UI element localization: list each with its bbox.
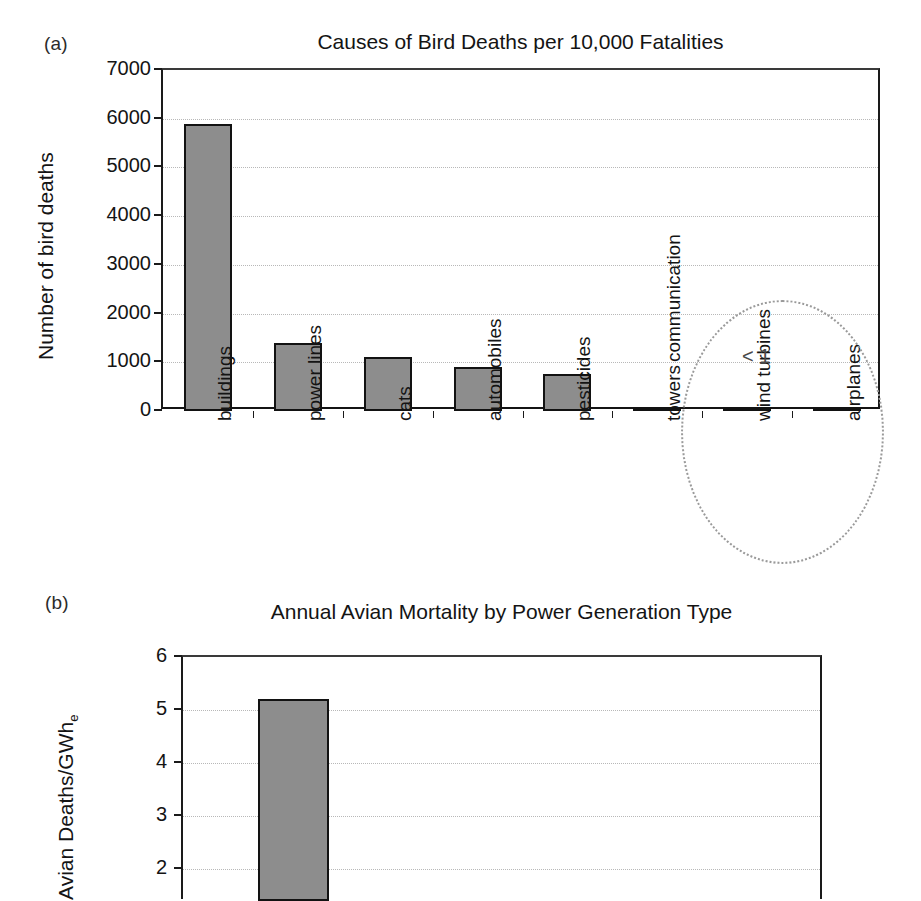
gridline xyxy=(163,216,878,217)
y-tick-mark xyxy=(174,867,182,869)
chart-b-plot-area xyxy=(181,655,822,899)
y-tick-label: 3000 xyxy=(85,251,151,274)
y-tick-mark xyxy=(154,68,162,70)
y-tick-label: 1000 xyxy=(85,349,151,372)
x-tick-mark xyxy=(523,411,524,418)
x-category-label-line: communication xyxy=(664,234,685,362)
y-tick-mark xyxy=(154,263,162,265)
less-than-one-annotation: < 1 xyxy=(742,345,770,368)
x-category-label: airplanes xyxy=(844,344,864,421)
y-tick-mark xyxy=(154,312,162,314)
y-tick-mark xyxy=(154,409,162,411)
x-tick-mark xyxy=(612,411,613,418)
x-tick-mark xyxy=(253,411,254,418)
y-tick-mark xyxy=(154,214,162,216)
y-tick-mark xyxy=(174,761,182,763)
chart-b-y-axis-title-text: Avian Deaths/GWh xyxy=(54,722,77,900)
y-tick-label: 5000 xyxy=(85,154,151,177)
panel-b-letter: (b) xyxy=(45,592,69,614)
x-category-label: buildings xyxy=(215,346,235,421)
x-category-label-line: pesticides xyxy=(574,337,594,422)
y-tick-label: 7000 xyxy=(85,57,151,80)
x-category-label-line: power lines xyxy=(305,325,325,421)
bar xyxy=(258,699,329,901)
y-tick-label: 4000 xyxy=(85,203,151,226)
y-tick-mark xyxy=(174,708,182,710)
y-tick-label: 3 xyxy=(133,803,167,826)
gridline xyxy=(163,265,878,266)
gridline xyxy=(163,119,878,120)
x-category-label: pesticides xyxy=(574,337,594,422)
x-tick-mark xyxy=(343,411,344,418)
x-category-label: communicationtowers xyxy=(664,234,685,421)
y-tick-mark xyxy=(154,117,162,119)
x-category-label: cats xyxy=(395,386,415,421)
x-category-label-line: towers xyxy=(664,365,685,421)
y-tick-label: 2000 xyxy=(85,300,151,323)
chart-b-y-axis-title: Avian Deaths/GWhe xyxy=(54,715,81,900)
panel-a-letter: (a) xyxy=(44,33,68,55)
x-tick-mark xyxy=(433,411,434,418)
y-tick-label: 0 xyxy=(85,398,151,421)
chart-a-y-axis-title: Number of bird deaths xyxy=(34,152,58,360)
y-tick-label: 6 xyxy=(133,644,167,667)
y-tick-label: 4 xyxy=(133,750,167,773)
x-category-label: power lines xyxy=(305,325,325,421)
y-tick-mark xyxy=(174,655,182,657)
chart-b-y-axis-title-subscript: e xyxy=(66,715,81,722)
chart-a-title: Causes of Bird Deaths per 10,000 Fatalit… xyxy=(161,30,880,54)
x-category-label-line: automobiles xyxy=(485,319,505,421)
y-tick-mark xyxy=(154,360,162,362)
gridline xyxy=(163,167,878,168)
y-tick-label: 5 xyxy=(133,697,167,720)
x-tick-mark xyxy=(792,411,793,418)
x-category-label: automobiles xyxy=(485,319,505,421)
x-category-label-line: cats xyxy=(395,386,415,421)
chart-b-title: Annual Avian Mortality by Power Generati… xyxy=(181,600,822,624)
y-tick-mark xyxy=(174,814,182,816)
y-tick-label: 2 xyxy=(133,856,167,879)
y-tick-mark xyxy=(154,165,162,167)
x-tick-mark xyxy=(702,411,703,418)
y-tick-label: 6000 xyxy=(85,105,151,128)
x-category-label-line: airplanes xyxy=(844,344,864,421)
x-category-label-line: buildings xyxy=(215,346,235,421)
